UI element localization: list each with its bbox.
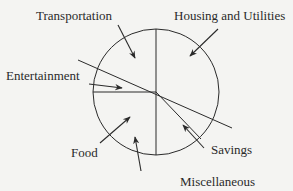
arrow-transportation-icon [118,25,135,58]
pie-chart [0,0,293,191]
arrow-miscellaneous-icon [135,137,141,171]
divider-diagonal-long [78,60,232,128]
divider-savings [156,92,201,139]
label-housing-and-utilities: Housing and Utilities [174,9,285,23]
label-food: Food [71,146,98,160]
label-miscellaneous: Miscellaneous [180,175,255,189]
label-savings: Savings [211,143,252,157]
label-transportation: Transportation [36,9,112,23]
arrow-entertainment-icon [89,84,122,88]
label-entertainment: Entertainment [6,69,80,83]
arrow-food-icon [100,117,130,143]
